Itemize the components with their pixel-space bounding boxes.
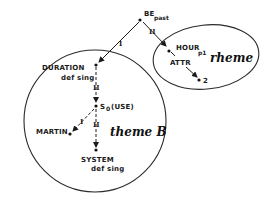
edge-label-s0-martin: I bbox=[80, 117, 83, 126]
node-system-label: SYSTEM bbox=[81, 156, 114, 164]
edge-label-hour-two: ATTR bbox=[170, 59, 191, 67]
node-system bbox=[94, 148, 97, 151]
theme-label: theme B bbox=[110, 125, 167, 139]
node-hour-subscript: p1 bbox=[198, 49, 206, 57]
node-be-label: BE bbox=[144, 10, 155, 18]
edge-label-be-hour: II bbox=[149, 27, 156, 36]
node-hour bbox=[167, 49, 170, 52]
node-be-subscript: past bbox=[154, 14, 169, 22]
node-s0-label: S bbox=[100, 103, 105, 111]
node-s0 bbox=[94, 104, 97, 107]
node-hour-label: HOUR bbox=[176, 44, 200, 52]
edge-label-be-duration: I bbox=[119, 39, 122, 48]
rheme-label: rheme bbox=[210, 51, 253, 65]
node-duration-label: DURATION bbox=[42, 64, 85, 72]
node-be bbox=[138, 18, 141, 21]
node-system-sublabel: def sing bbox=[91, 165, 124, 173]
node-duration-sublabel: def sing bbox=[61, 74, 94, 82]
node-martin-label: MARTIN bbox=[36, 128, 68, 136]
node-s0-suffix: (USE) bbox=[111, 103, 134, 111]
edge-hour-attr bbox=[171, 52, 175, 56]
edge-label-s0-system: II bbox=[93, 120, 100, 129]
node-two bbox=[197, 78, 200, 81]
node-martin bbox=[68, 132, 71, 135]
edge-s0-martin bbox=[73, 109, 94, 131]
node-two-label: 2 bbox=[203, 77, 208, 85]
edge-hour-two bbox=[186, 67, 197, 77]
semantic-network-diagram: I II II I II ATTR BE past DURATION def s… bbox=[0, 0, 262, 197]
edge-label-duration-s0: II bbox=[93, 83, 100, 92]
node-duration bbox=[94, 63, 97, 66]
node-s0-subscript: 0 bbox=[106, 105, 110, 112]
